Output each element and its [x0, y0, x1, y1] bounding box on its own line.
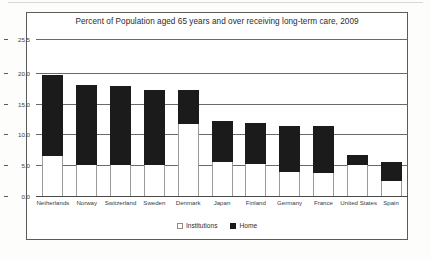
- y-tick-label: 10.0: [8, 131, 30, 138]
- x-tick-label-netherlands: Netherlands: [36, 199, 70, 207]
- x-tick-label-japan: Japan: [205, 199, 239, 207]
- bar-segment-institutions: [347, 165, 368, 196]
- x-tick-label-finland: Finland: [239, 199, 273, 207]
- white-square-icon: [177, 223, 183, 229]
- black-square-icon: [230, 223, 236, 229]
- bar-segment-home: [313, 126, 334, 172]
- bar-segment-home: [245, 123, 266, 164]
- y-tick-mark: [4, 134, 8, 135]
- legend-item-home[interactable]: Home: [230, 222, 257, 230]
- bar-segment-home: [381, 162, 402, 180]
- y-tick-mark: [4, 104, 8, 105]
- bar-group: [381, 162, 402, 196]
- bar-group: [110, 86, 131, 196]
- y-tick-mark: [4, 73, 8, 74]
- x-tick-label-denmark: Denmark: [171, 199, 205, 207]
- gridline-25.5: [36, 39, 408, 40]
- bar-segment-institutions: [144, 165, 165, 196]
- bar-group: [42, 75, 63, 196]
- bar-segment-institutions: [110, 165, 131, 196]
- y-axis-labels: 0.05.010.015.020.025.5: [8, 39, 30, 196]
- legend-item-institutions[interactable]: Institutions: [177, 222, 218, 230]
- x-tick-label-switzerland: Switzerland: [104, 199, 138, 207]
- bar-segment-institutions: [178, 124, 199, 196]
- bar-segment-institutions: [313, 173, 334, 196]
- y-tick-mark: [4, 165, 8, 166]
- bar-group: [144, 90, 165, 197]
- bar-segment-institutions: [212, 162, 233, 196]
- y-tick-label: 15.0: [8, 101, 30, 108]
- bar-segment-institutions: [381, 181, 402, 196]
- bar-segment-home: [212, 121, 233, 162]
- bar-segment-institutions: [279, 172, 300, 196]
- y-tick-label: 25.5: [8, 36, 30, 43]
- bar-segment-home: [178, 90, 199, 124]
- bar-group: [245, 123, 266, 196]
- bar-group: [347, 155, 368, 196]
- x-tick-label-sweden: Sweden: [137, 199, 171, 207]
- x-tick-label-norway: Norway: [70, 199, 104, 207]
- y-tick-mark: [4, 39, 8, 40]
- gridline-20.0: [36, 73, 408, 74]
- bar-segment-home: [347, 155, 368, 165]
- bar-segment-home: [110, 86, 131, 165]
- bar-group: [178, 90, 199, 197]
- bar-segment-institutions: [245, 164, 266, 196]
- bar-segment-home: [42, 75, 63, 156]
- bar-segment-institutions: [76, 165, 97, 196]
- scan-artifact-line: [8, 2, 423, 3]
- y-tick-label: 0.0: [8, 193, 30, 200]
- y-tick-label: 20.0: [8, 70, 30, 77]
- bar-group: [313, 126, 334, 196]
- x-tick-label-france: France: [307, 199, 341, 207]
- bar-segment-home: [144, 90, 165, 166]
- bar-segment-home: [279, 126, 300, 172]
- bar-group: [279, 126, 300, 196]
- y-tick-label: 5.0: [8, 162, 30, 169]
- x-tick-label-spain: Spain: [374, 199, 408, 207]
- gridline-0.0: [36, 196, 408, 197]
- chart-legend: InstitutionsHome: [26, 222, 408, 230]
- bar-group: [212, 121, 233, 196]
- chart-title: Percent of Population aged 65 years and …: [26, 17, 408, 26]
- x-tick-label-united-states: United States: [340, 199, 374, 207]
- bar-group: [76, 85, 97, 196]
- x-tick-label-germany: Germany: [273, 199, 307, 207]
- bar-segment-home: [76, 85, 97, 166]
- y-tick-mark: [4, 196, 8, 197]
- legend-label: Institutions: [186, 222, 218, 230]
- plot-area: [36, 39, 408, 196]
- chart-figure: Percent of Population aged 65 years and …: [0, 0, 431, 259]
- x-axis-labels: NetherlandsNorwaySwitzerlandSwedenDenmar…: [36, 199, 408, 213]
- legend-label: Home: [239, 222, 257, 230]
- bar-segment-institutions: [42, 156, 63, 196]
